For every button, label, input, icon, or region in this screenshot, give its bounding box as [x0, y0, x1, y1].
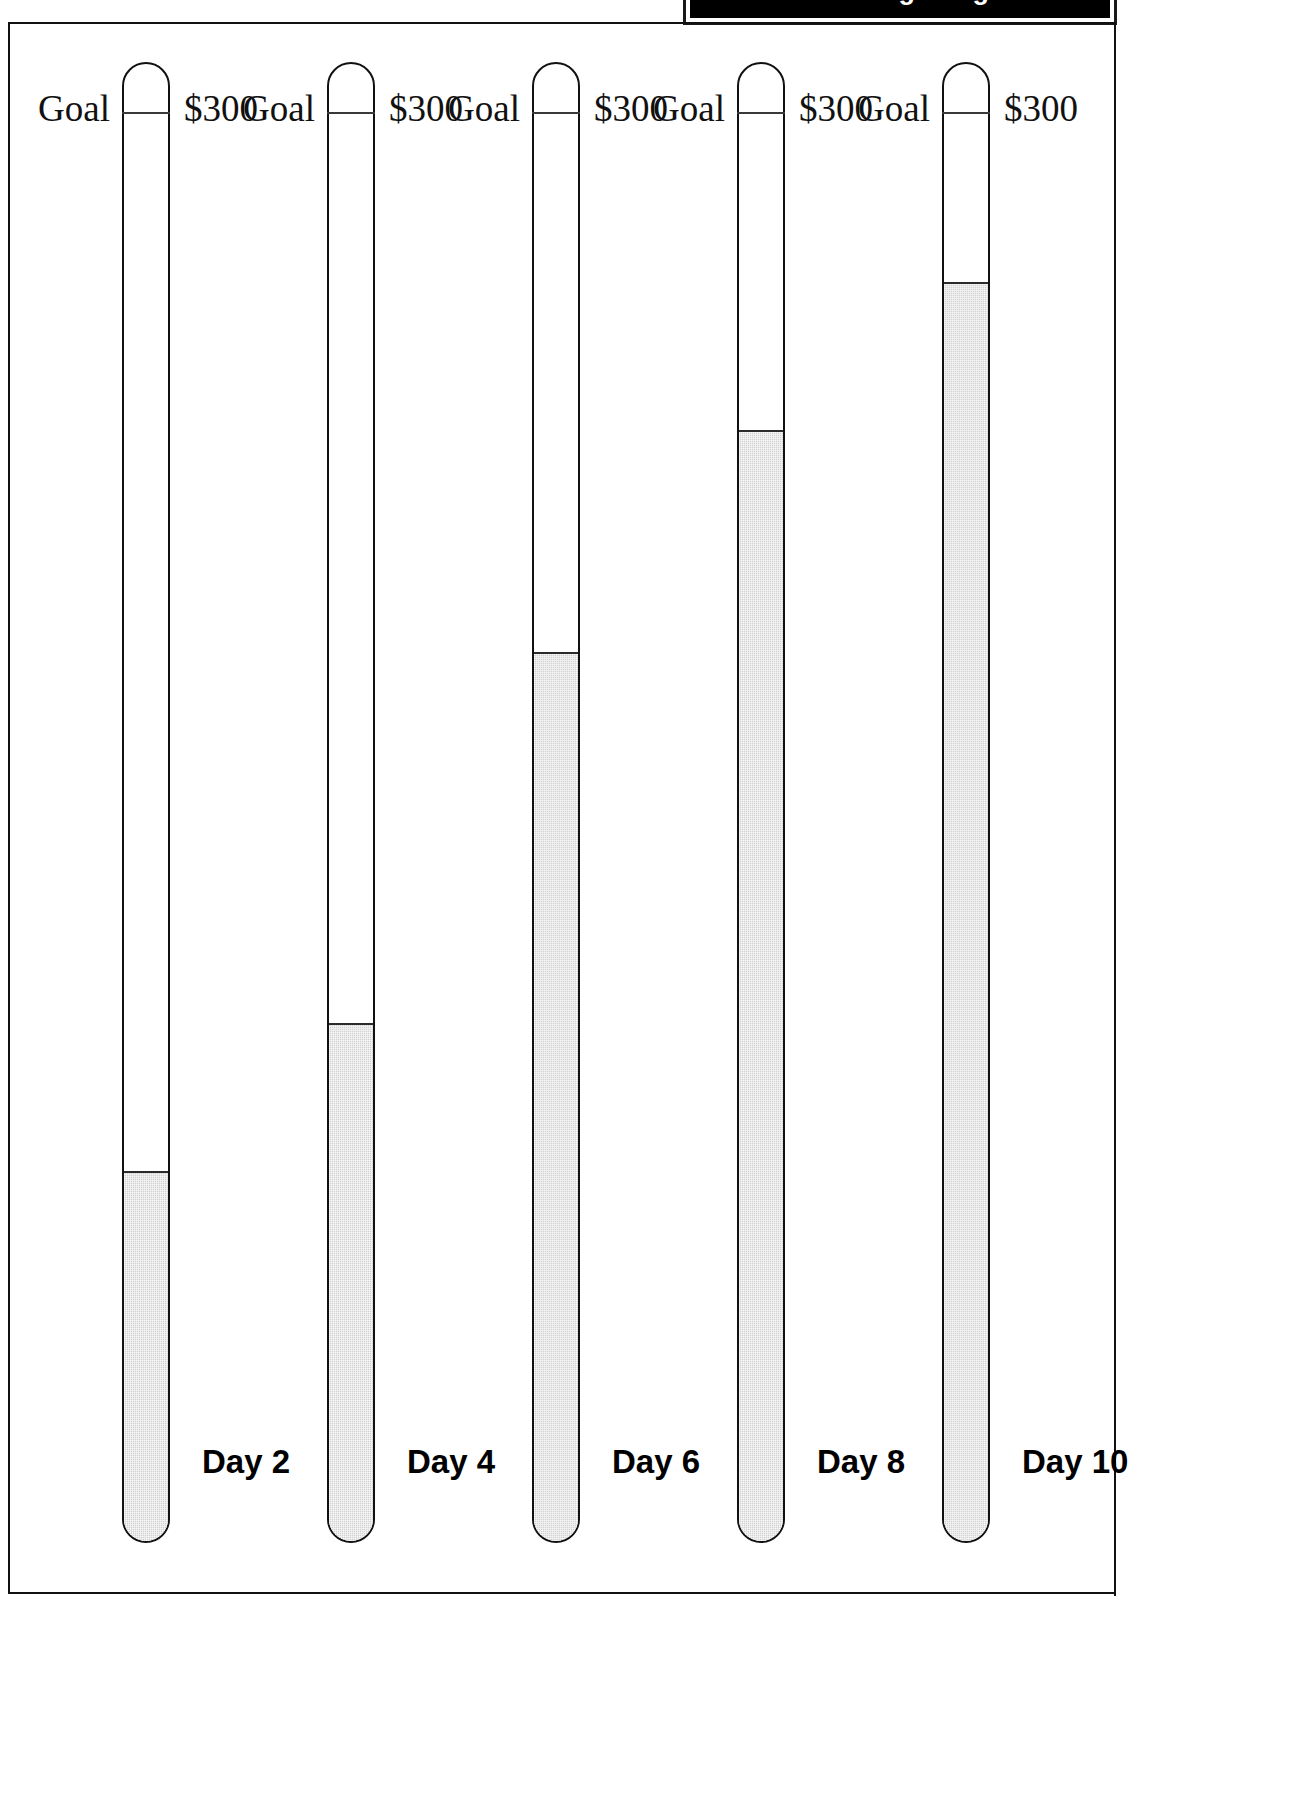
day-label: Day 4 — [407, 1445, 495, 1478]
day-label: Day 2 — [202, 1445, 290, 1478]
thermometer-tube — [532, 62, 580, 1543]
goal-label: Goal — [812, 90, 930, 127]
thermometer-tube — [327, 62, 375, 1543]
thermometer-tube — [737, 62, 785, 1543]
thermometer-chart: Goal$300Day 2Goal$300Day 4Goal$300Day 6G… — [0, 0, 1294, 1802]
thermometer-fill — [124, 1171, 168, 1541]
thermometer-fill — [944, 282, 988, 1541]
day-label: Day 8 — [817, 1445, 905, 1478]
goal-label: Goal — [0, 90, 110, 127]
goal-label: Goal — [402, 90, 520, 127]
goal-tick-line — [327, 112, 375, 114]
goal-label: Goal — [197, 90, 315, 127]
goal-tick-line — [737, 112, 785, 114]
day-label: Day 10 — [1022, 1445, 1128, 1478]
goal-tick-line — [532, 112, 580, 114]
goal-amount-label: $300 — [1004, 90, 1124, 127]
thermometer-fill — [329, 1023, 373, 1541]
goal-label: Goal — [607, 90, 725, 127]
thermometer-fill — [739, 430, 783, 1541]
thermometer-fill — [534, 652, 578, 1541]
thermometer-tube — [122, 62, 170, 1543]
day-label: Day 6 — [612, 1445, 700, 1478]
goal-tick-line — [122, 112, 170, 114]
thermometer-tube — [942, 62, 990, 1543]
goal-tick-line — [942, 112, 990, 114]
